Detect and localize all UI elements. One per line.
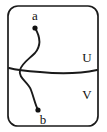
- point-a-dot: [32, 25, 37, 30]
- label-b: b: [40, 112, 47, 127]
- figure-container: a b U V: [0, 0, 107, 132]
- vertical-s-curve: [20, 28, 40, 110]
- label-region-u: U: [82, 50, 92, 65]
- label-a: a: [32, 8, 38, 23]
- diagram-canvas: a b U V: [0, 0, 107, 132]
- label-region-v: V: [82, 87, 92, 102]
- horizontal-separating-curve: [9, 68, 97, 73]
